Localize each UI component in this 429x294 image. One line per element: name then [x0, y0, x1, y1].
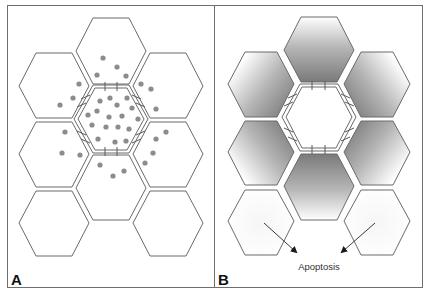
apoptosis-label: Apoptosis	[298, 261, 340, 272]
panel-a-label: A	[11, 271, 22, 288]
figure-canvas: A	[0, 0, 429, 294]
panel-a: A	[8, 6, 215, 289]
panel-b: Apoptosis B	[215, 6, 423, 289]
panel-b-label: B	[218, 271, 229, 288]
